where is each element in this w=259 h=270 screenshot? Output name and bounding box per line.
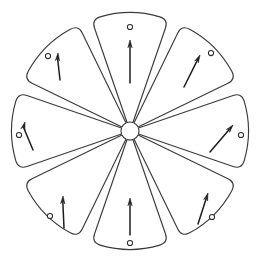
petal-group — [11, 12, 248, 249]
petal-bottom-left-circle-marker-icon — [47, 213, 52, 218]
radial-petal-diagram — [0, 0, 259, 270]
petal-top-left-circle-marker-icon — [45, 53, 50, 58]
petal-bottom-right-circle-marker-icon — [209, 214, 214, 219]
petal-left-circle-marker-icon — [16, 132, 21, 137]
diagram-canvas — [0, 0, 259, 270]
petal-top-right-circle-marker-icon — [208, 50, 213, 55]
petal-top-circle-marker-icon — [127, 24, 132, 29]
petal-right-circle-marker-icon — [238, 132, 243, 137]
petal-bottom-circle-marker-icon — [127, 240, 132, 245]
